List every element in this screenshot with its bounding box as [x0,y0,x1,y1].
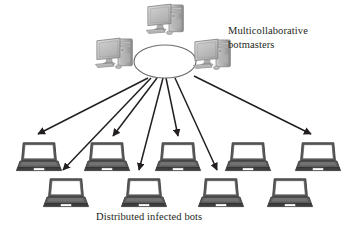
command-and-control-cloud [134,45,196,78]
bot-5 [295,143,340,171]
bot-3 [155,143,200,171]
diagram-canvas: Multicollaborative botmasters Distribute… [0,0,351,236]
bot-4 [225,143,270,171]
botmaster-left [95,38,132,68]
bots-label: Distributed infected bots [96,210,202,224]
bot-9 [267,179,312,207]
bot-8 [198,179,243,207]
bot-6 [43,179,88,207]
botmasters-label: Multicollaborative botmasters [228,24,308,51]
botmaster-right [193,39,230,69]
bot-7 [121,179,166,207]
botmaster-top [146,4,183,34]
bot-1 [16,143,61,171]
bot-2 [84,143,129,171]
